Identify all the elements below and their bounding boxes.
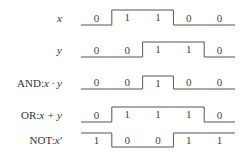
bit-value: 0 <box>94 44 100 56</box>
bit-value: 0 <box>94 109 100 121</box>
bit-value: 1 <box>94 134 100 146</box>
signal-row-not: NOT:x′10011 <box>30 133 235 147</box>
bit-value: 1 <box>155 43 161 55</box>
signal-label-and: AND:x · y <box>17 77 62 89</box>
signal-row-x: x01100 <box>56 10 235 25</box>
bit-value: 1 <box>217 134 223 146</box>
bit-value: 1 <box>186 108 192 120</box>
signal-label-x: x <box>56 12 62 24</box>
bit-value: 0 <box>217 44 223 56</box>
bit-value: 0 <box>94 76 100 88</box>
signal-row-or: OR:x + y01110 <box>21 107 235 122</box>
signal-label-or: OR:x + y <box>21 109 62 121</box>
bit-value: 0 <box>217 12 223 24</box>
signal-row-y: y00110 <box>56 42 235 57</box>
bit-value: 1 <box>186 43 192 55</box>
bit-value: 0 <box>217 76 223 88</box>
bit-value: 0 <box>155 134 161 146</box>
bit-value: 1 <box>124 108 130 120</box>
bit-value: 1 <box>155 11 161 23</box>
bit-value: 0 <box>124 44 130 56</box>
bit-value: 1 <box>155 108 161 120</box>
signal-label-not: NOT:x′ <box>30 134 63 146</box>
bit-value: 0 <box>124 134 130 146</box>
bit-value: 0 <box>186 76 192 88</box>
timing-diagram: x01100y00110AND:x · y00100OR:x + y01110N… <box>0 0 250 153</box>
bit-value: 1 <box>124 11 130 23</box>
signal-row-and: AND:x · y00100 <box>17 76 235 89</box>
bit-value: 0 <box>217 109 223 121</box>
bit-value: 0 <box>186 12 192 24</box>
signal-label-y: y <box>56 44 62 56</box>
bit-value: 1 <box>155 77 161 89</box>
bit-value: 1 <box>186 134 192 146</box>
bit-value: 0 <box>94 12 100 24</box>
bit-value: 0 <box>124 76 130 88</box>
